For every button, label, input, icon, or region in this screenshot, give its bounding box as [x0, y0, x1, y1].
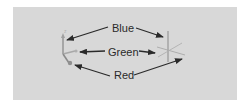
axis-gizmo-icon: z: [61, 28, 78, 65]
svg-text:z: z: [64, 28, 67, 34]
label-green: Green: [108, 46, 139, 58]
label-red: Red: [114, 69, 134, 81]
label-blue: Blue: [112, 22, 134, 34]
axis-crosshair-icon: [157, 31, 185, 62]
